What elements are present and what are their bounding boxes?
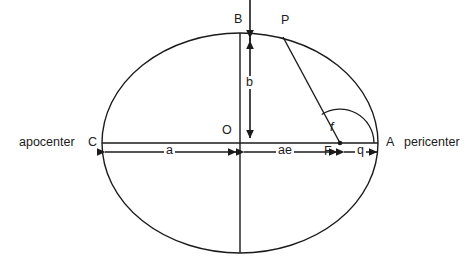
ellipse-diagram: apocenter C A pericenter B P O F b a ae … — [0, 0, 474, 258]
point-label-b: B — [234, 13, 242, 26]
point-label-f: F — [324, 145, 332, 158]
diagram-canvas — [0, 0, 474, 258]
point-label-c: C — [88, 136, 97, 149]
point-label-p: P — [281, 14, 289, 27]
focus-point-marker — [338, 141, 343, 146]
point-label-o: O — [222, 124, 232, 137]
dimension-label-b: b — [244, 76, 255, 89]
pericenter-label: pericenter — [404, 136, 460, 149]
dimension-label-ae: ae — [276, 144, 294, 157]
dimension-label-q: q — [355, 144, 366, 157]
apocenter-label: apocenter — [19, 136, 75, 149]
dimension-label-a: a — [164, 144, 175, 157]
angle-label-true-anomaly: f — [330, 121, 333, 134]
point-label-a: A — [386, 136, 394, 149]
